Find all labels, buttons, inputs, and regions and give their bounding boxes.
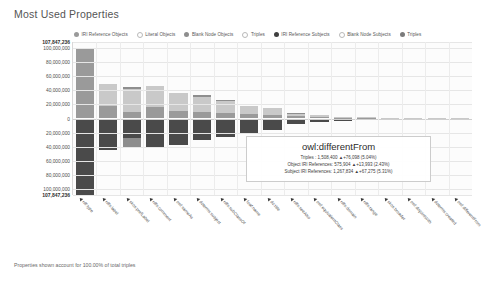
gridline	[73, 42, 472, 43]
legend-swatch-icon	[184, 32, 189, 37]
y-axis: 107,847,236100,000,00080,000,00060,000,0…	[0, 42, 70, 195]
x-axis-tick-label[interactable]: owl:differentFrom	[454, 196, 481, 227]
legend-item[interactable]: IRI Reference Subjects	[274, 32, 330, 37]
gridline-vertical	[120, 42, 121, 195]
x-axis-label-text: owl:disjointWith	[410, 199, 434, 224]
x-axis-tick-label[interactable]: rdfs:label	[101, 196, 119, 216]
x-axis-label-text: owl:differentFrom	[457, 199, 481, 227]
legend-item[interactable]: Triples	[242, 32, 264, 38]
x-axis-tick-label[interactable]: skos:broader	[383, 196, 406, 221]
gridline	[73, 48, 472, 49]
x-axis-label-text: dcterms:subject	[198, 199, 222, 225]
x-axis-tick-label[interactable]: owl:sameAs	[172, 196, 194, 220]
legend-swatch-icon	[137, 32, 143, 38]
x-axis-label-text: dc:title	[269, 199, 281, 212]
y-axis-tick-label: 100,000,000	[43, 45, 70, 50]
bar-segment	[216, 100, 234, 101]
x-axis-tick-label[interactable]: rdfs:subClassOf	[219, 196, 246, 225]
bar-segment	[169, 111, 187, 118]
bar-segment	[240, 119, 258, 133]
bar-segment	[123, 89, 141, 112]
x-axis-tick-label[interactable]: skos:prefLabel	[125, 196, 150, 223]
x-axis-label-text: foaf:name	[245, 199, 262, 217]
x-axis-label-text: rdfs:comment	[151, 199, 172, 222]
legend-item[interactable]: Blank Node Subjects	[339, 32, 391, 38]
y-axis-tick-label: 40,000,000	[46, 88, 70, 93]
bar-segment	[193, 119, 211, 140]
gridline	[73, 62, 472, 63]
bar-segment	[123, 87, 141, 88]
gridline-vertical	[96, 42, 97, 195]
gridline-vertical	[167, 42, 168, 195]
zero-axis-line	[73, 119, 472, 120]
y-axis-tick-label: 107,847,236	[42, 192, 70, 198]
x-axis-tick-label[interactable]: rdfs:range	[360, 196, 380, 217]
tooltip-row-subject-iri: Subject IRI References: 1,267,834 ▲+67,2…	[253, 169, 424, 176]
bar-segment	[99, 119, 117, 150]
bar-segment	[263, 108, 281, 114]
x-axis-tick-label[interactable]: owl:disjointWith	[407, 196, 434, 225]
bar-segment	[146, 107, 164, 118]
legend-label: IRI Reference Subjects	[281, 32, 329, 37]
gridline-vertical	[237, 42, 238, 195]
bar-segment	[99, 84, 117, 105]
bar-segment	[287, 113, 305, 114]
chart-tooltip: owl:differentFrom Triples : 1,508,400 ▲+…	[246, 136, 431, 182]
x-axis-label-text: skos:broader	[386, 199, 406, 221]
chart-footer-note: Properties shown account for 100.00% of …	[14, 262, 135, 268]
x-axis-tick-label[interactable]: rdfs:domain	[336, 196, 358, 219]
legend-label: Triples	[251, 32, 265, 37]
y-axis-tick-label: 60,000,000	[46, 73, 70, 78]
legend-swatch-icon	[339, 32, 345, 38]
x-axis-label-text: rdf:type	[81, 199, 94, 213]
y-axis-tick-label: 20,000,000	[46, 130, 70, 135]
legend-label: Blank Node Objects	[192, 32, 234, 37]
x-axis-tick-label[interactable]: dcterms:subject	[195, 196, 222, 225]
gridline	[73, 90, 472, 91]
x-axis-label-text: rdfs:domain	[339, 199, 358, 219]
x-axis-tick-label[interactable]: rdfs:comment	[148, 196, 172, 222]
page-title: Most Used Properties	[14, 8, 119, 20]
x-axis-tick-label[interactable]: dc:title	[266, 196, 281, 212]
bar-segment	[99, 106, 117, 119]
legend-item[interactable]: IRI Reference Objects	[74, 32, 128, 37]
x-axis-label-text: skos:prefLabel	[128, 199, 150, 223]
x-axis-label-text: rdfs:range	[363, 199, 380, 217]
y-axis-tick-label: 80,000,000	[46, 59, 70, 64]
gridline	[73, 76, 472, 77]
gridline-vertical	[190, 42, 191, 195]
gridline	[73, 189, 472, 190]
y-axis-tick-label: 60,000,000	[46, 159, 70, 164]
tooltip-title: owl:differentFrom	[253, 141, 424, 152]
bar-segment	[263, 119, 281, 130]
bar-segment	[193, 95, 211, 96]
legend-swatch-icon	[242, 32, 248, 38]
x-axis-tick-label[interactable]: foaf:name	[242, 196, 262, 217]
y-axis-tick-label: 40,000,000	[46, 144, 70, 149]
legend-label: IRI Reference Objects	[82, 32, 128, 37]
legend-item[interactable]: Triples	[400, 32, 421, 37]
y-axis-tick-label: 0	[67, 116, 70, 121]
chart-legend: IRI Reference ObjectsLiteral ObjectsBlan…	[74, 29, 472, 40]
legend-swatch-icon	[274, 32, 279, 37]
legend-label: Literal Objects	[145, 32, 175, 37]
x-axis-label-text: rdfs:seeAlso	[292, 199, 312, 220]
x-axis-label-text: rdfs:label	[104, 199, 119, 215]
tooltip-row-triples: Triples : 1,508,400 ▲+76,098 (5.04%)	[253, 155, 424, 162]
bar-segment	[123, 119, 141, 139]
bar-segment	[334, 117, 352, 118]
x-axis-label-text: rdfs:subClassOf	[222, 199, 246, 225]
x-axis-label-text: owl:sameAs	[175, 199, 194, 220]
gridline-vertical	[449, 42, 450, 195]
legend-item[interactable]: Literal Objects	[137, 32, 176, 38]
legend-swatch-icon	[400, 32, 405, 37]
x-axis-label-text: dcterms:created	[433, 199, 457, 225]
x-axis-tick-label[interactable]: rdf:type	[78, 196, 94, 213]
bar-segment	[310, 115, 328, 117]
bar-segment	[216, 100, 234, 113]
legend-item[interactable]: Blank Node Objects	[184, 32, 233, 37]
x-axis-tick-label[interactable]: rdfs:seeAlso	[289, 196, 312, 220]
gridline-vertical	[143, 42, 144, 195]
bar-segment	[169, 93, 187, 111]
bar-segment	[287, 114, 305, 117]
